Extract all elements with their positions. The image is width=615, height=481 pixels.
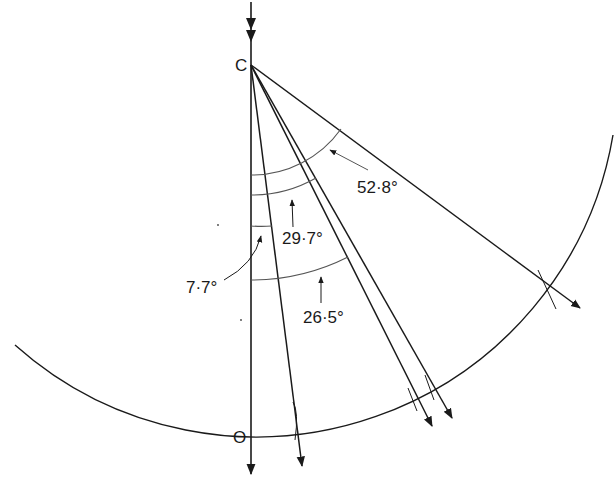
dot [217, 224, 219, 226]
arc-29-7 [251, 178, 316, 195]
arc-26-5 [251, 257, 348, 280]
angle-label-26-5: 26·5° [303, 308, 344, 327]
angle-label-7-7: 7·7° [186, 278, 217, 297]
pointer-7-7 [224, 236, 261, 280]
dot [240, 319, 242, 321]
incoming-arrow-icon [246, 30, 256, 42]
pointer-29-7 [292, 200, 293, 227]
circle-arc [15, 135, 613, 437]
pointer-52-8 [330, 150, 368, 170]
crossing-tick [538, 270, 556, 309]
ray-52-8 [251, 65, 580, 308]
ray-26-5 [251, 65, 432, 426]
angle-label-52-8: 52·8° [357, 178, 398, 197]
label-o: O [233, 428, 246, 447]
diagram-canvas: C O 52·8° 29·7° 7·7° 26·5° [0, 0, 615, 481]
incoming-arrow-icon [246, 18, 256, 30]
label-c: C [235, 56, 247, 75]
angle-label-29-7: 29·7° [282, 229, 323, 248]
